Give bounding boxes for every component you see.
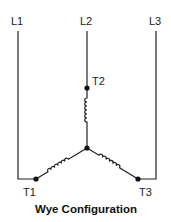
coil-t2 — [85, 88, 87, 148]
label-l2: L2 — [80, 15, 92, 27]
terminal-t3-dot — [135, 176, 140, 181]
label-t3: T3 — [139, 186, 152, 198]
center-junction-dot — [84, 145, 89, 150]
coil-t1 — [35, 146, 87, 179]
wye-diagram: L1 L2 L3 T2 T1 T3 Wye Configuration — [0, 0, 171, 222]
wire-l1 — [18, 31, 36, 179]
label-l3: L3 — [149, 15, 161, 27]
wire-l3 — [138, 31, 156, 179]
label-t1: T1 — [23, 186, 36, 198]
terminal-t1-dot — [33, 176, 38, 181]
terminal-t2-dot — [84, 85, 89, 90]
label-t2: T2 — [92, 75, 105, 87]
diagram-title: Wye Configuration — [35, 203, 137, 215]
label-l1: L1 — [11, 15, 23, 27]
coil-t3 — [87, 146, 139, 179]
